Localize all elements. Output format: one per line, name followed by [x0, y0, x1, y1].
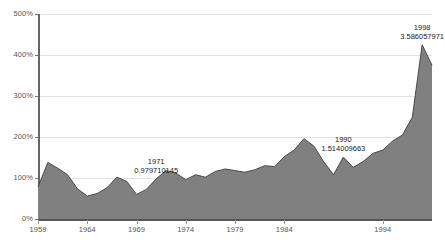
x-axis-tick: [38, 220, 39, 224]
x-axis-tick: [186, 220, 187, 224]
area-fill: [38, 45, 432, 219]
x-axis-label: 1974: [166, 225, 206, 234]
x-axis-tick: [284, 220, 285, 224]
x-axis-tick: [137, 220, 138, 224]
area-chart: 0%100%200%300%400%500% 19591964196919741…: [0, 0, 445, 243]
annotation-value: 0.979710145: [96, 166, 216, 175]
annotation-value: 1.514009663: [283, 144, 403, 153]
annotation-value: 3.586057971: [362, 32, 445, 41]
x-axis-label: 1959: [18, 225, 58, 234]
x-axis-label: 1994: [363, 225, 403, 234]
annotation-year: 1971: [96, 157, 216, 166]
x-axis-label: 1969: [117, 225, 157, 234]
annotation-year: 1990: [283, 135, 403, 144]
x-axis-tick: [87, 220, 88, 224]
annotation-year: 1998: [362, 23, 445, 32]
x-axis-tick: [235, 220, 236, 224]
x-axis-label: 1979: [215, 225, 255, 234]
data-annotation: 19983.586057971: [362, 23, 445, 41]
x-axis-label: 1984: [264, 225, 304, 234]
x-axis-tick: [383, 220, 384, 224]
data-annotation: 19901.514009663: [283, 135, 403, 153]
x-axis-label: 1964: [67, 225, 107, 234]
data-annotation: 19710.979710145: [96, 157, 216, 175]
